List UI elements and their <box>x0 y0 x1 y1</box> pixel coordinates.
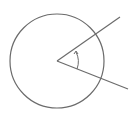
angle-arc <box>76 52 78 69</box>
circle-angle-diagram <box>0 0 140 124</box>
lower-ray <box>57 61 128 89</box>
upper-ray <box>57 17 120 61</box>
diagram-canvas <box>0 0 140 124</box>
